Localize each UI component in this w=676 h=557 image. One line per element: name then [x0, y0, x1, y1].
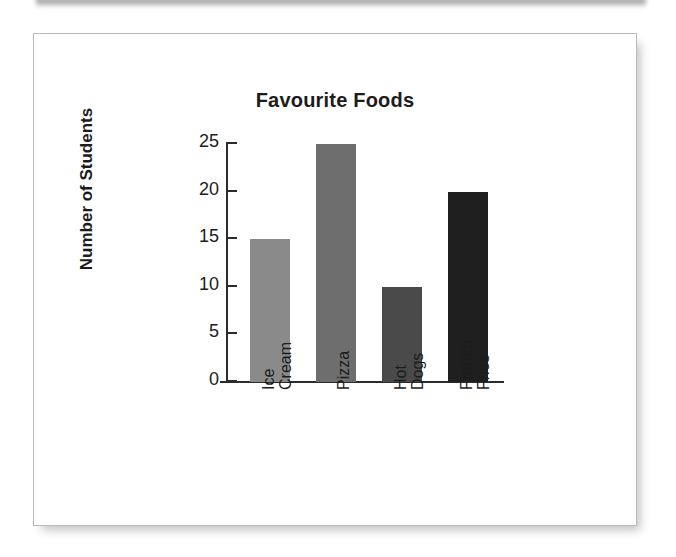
- x-axis-label-line: Cream: [278, 270, 295, 390]
- x-axis-label-french-fries: FrenchFries: [459, 270, 493, 390]
- x-axis-label-line: Pizza: [336, 270, 353, 390]
- y-axis-tick-label: 15: [199, 226, 219, 247]
- scan-artifact-band: [36, 0, 646, 7]
- y-axis-tick-label: 5: [209, 321, 219, 342]
- y-axis-tick-label: 0: [209, 369, 219, 390]
- y-axis-title: Number of Students: [77, 84, 97, 294]
- figure-card: Favourite Foods Number of Students 05101…: [33, 33, 637, 526]
- x-axis-label-hot-dogs: HotDogs: [393, 270, 427, 390]
- x-axis-label-line: Fries: [476, 270, 493, 390]
- x-axis-label-ice-cream: IceCream: [261, 270, 295, 390]
- x-axis-label-line: French: [459, 270, 476, 390]
- y-axis-tick-label: 25: [199, 131, 219, 152]
- x-axis-label-line: Hot: [393, 270, 410, 390]
- x-axis-label-pizza: Pizza: [336, 270, 353, 390]
- y-axis-tick-label: 20: [199, 179, 219, 200]
- y-axis-tick-label: 10: [199, 274, 219, 295]
- x-axis-label-line: Dogs: [410, 270, 427, 390]
- x-axis-label-line: Ice: [261, 270, 278, 390]
- chart-title: Favourite Foods: [34, 89, 636, 112]
- bar-chart: Favourite Foods Number of Students 05101…: [34, 34, 636, 525]
